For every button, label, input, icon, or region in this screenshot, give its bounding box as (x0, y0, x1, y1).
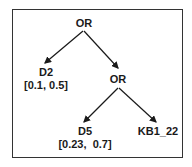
node-label: D2 (20, 66, 72, 79)
node-or2: OR (104, 73, 132, 86)
node-d2: D2 [0.1, 0.5] (20, 66, 72, 92)
node-root-or: OR (70, 17, 98, 30)
node-label: OR (70, 17, 98, 30)
node-label: KB1_22 (136, 125, 180, 138)
node-kb1-22: KB1_22 (136, 125, 180, 138)
node-label: D5 (55, 125, 115, 138)
edge-root-d2 (45, 31, 83, 63)
edge-or2-d5 (84, 88, 118, 122)
node-d5: D5 [0.23, 0.7] (55, 125, 115, 151)
edge-or2-kb (119, 88, 156, 122)
node-label: OR (104, 73, 132, 86)
node-range: [0.23, 0.7] (55, 138, 115, 151)
edge-root-or2 (84, 31, 118, 68)
node-range: [0.1, 0.5] (20, 79, 72, 92)
